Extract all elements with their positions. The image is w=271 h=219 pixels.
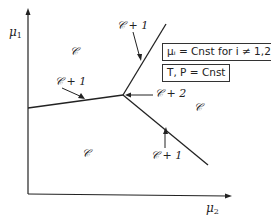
boundary-left — [28, 95, 123, 108]
x-axis-arrow-icon — [225, 194, 232, 199]
condition-box-temperature-pressure: T, P = Cnst — [162, 64, 230, 82]
region-label-right: 𝒞 — [194, 102, 202, 113]
y-axis-label: μ1 — [9, 25, 22, 40]
condition-box-chemical-potential: μᵢ = Cnst for i ≠ 1,2 — [162, 43, 271, 61]
x-axis — [28, 194, 228, 196]
region-label-lower: 𝒞 — [82, 148, 90, 159]
arrow-icon — [137, 54, 142, 61]
boundary-label-upper: 𝒞 + 1 — [117, 20, 148, 31]
region-label-upper-left: 𝒞 — [70, 46, 78, 57]
boundary-upper — [123, 24, 166, 95]
y-axis-arrow-icon — [26, 8, 31, 15]
boundary-label-triple-point: 𝒞 + 2 — [155, 88, 186, 99]
x-axis-label: μ2 — [206, 201, 219, 216]
diagram-canvas — [0, 0, 271, 219]
boundary-label-left: 𝒞 + 1 — [55, 76, 86, 87]
boundary-label-lower-right: 𝒞 + 1 — [151, 150, 182, 161]
